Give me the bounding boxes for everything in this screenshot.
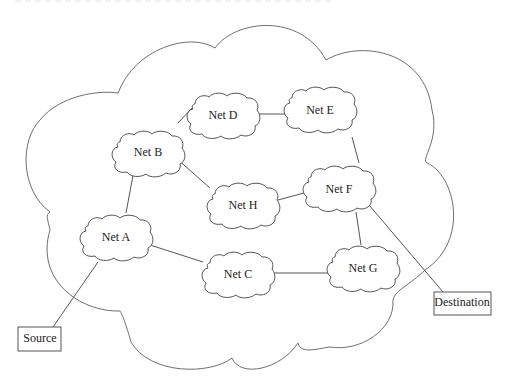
link-source-a — [53, 262, 98, 327]
node-net-a: Net A — [80, 215, 153, 261]
node-net-g: Net G — [327, 246, 400, 292]
link-e-f — [352, 137, 359, 163]
node-net-d: Net D — [187, 93, 260, 139]
node-net-e: Net E — [284, 87, 357, 133]
node-net-f: Net F — [303, 166, 376, 212]
node-net-c: Net C — [202, 252, 275, 298]
node-label: Net C — [224, 267, 252, 281]
node-label: Net G — [349, 261, 378, 275]
node-net-b: Net B — [112, 131, 185, 177]
link-h-f — [278, 193, 304, 200]
link-a-b — [126, 170, 134, 213]
node-label: Net F — [326, 182, 353, 196]
destination-label: Destination — [434, 295, 489, 309]
network-diagram: Net A Net B Net C Net D Net E Net F Net … — [0, 0, 508, 391]
node-label: Net B — [134, 145, 162, 159]
link-a-c — [150, 245, 203, 262]
source-label: Source — [23, 331, 56, 345]
node-net-h: Net H — [207, 183, 280, 229]
source-endpoint: Source — [18, 327, 61, 351]
node-label: Net D — [209, 108, 238, 122]
node-label: Net H — [229, 198, 258, 212]
link-f-g — [356, 212, 361, 245]
node-label: Net A — [102, 230, 131, 244]
node-label: Net E — [306, 103, 334, 117]
destination-endpoint: Destination — [434, 292, 491, 315]
